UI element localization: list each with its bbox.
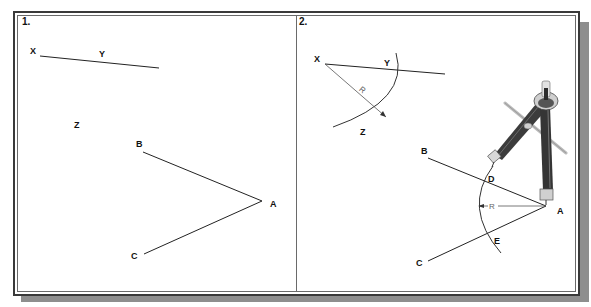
point-d-label: D (488, 174, 495, 184)
point-e-label: E (494, 236, 500, 246)
point-a-label: A (270, 199, 277, 209)
point-a-label: A (557, 206, 564, 216)
panel-2: 2. X Y R Z B C A D E R (299, 16, 566, 268)
panel-2-number: 2. (299, 16, 308, 27)
radius-arrowhead-x (380, 111, 386, 117)
point-c-label: C (131, 251, 138, 261)
point-b-label: B (136, 139, 143, 149)
point-x-label: X (30, 46, 36, 56)
point-y-label: Y (384, 58, 390, 68)
radius-line-x (325, 64, 386, 117)
compass-icon (488, 81, 566, 205)
point-y-label: Y (99, 49, 105, 59)
line-ac (144, 201, 262, 254)
line-ab (143, 152, 262, 201)
panel-1: 1. X Y Z B A C (22, 16, 277, 261)
construction-drawing: 1. X Y Z B A C 2. X Y R Z B C A D E R (0, 0, 591, 307)
point-x-label: X (314, 54, 320, 64)
point-b-label: B (421, 146, 428, 156)
radius-label-a: R (489, 202, 495, 211)
line-ab (428, 158, 546, 206)
point-z-label: Z (360, 127, 366, 137)
panel-1-number: 1. (22, 16, 31, 27)
point-c-label: C (416, 258, 423, 268)
point-z-label: Z (74, 120, 80, 130)
